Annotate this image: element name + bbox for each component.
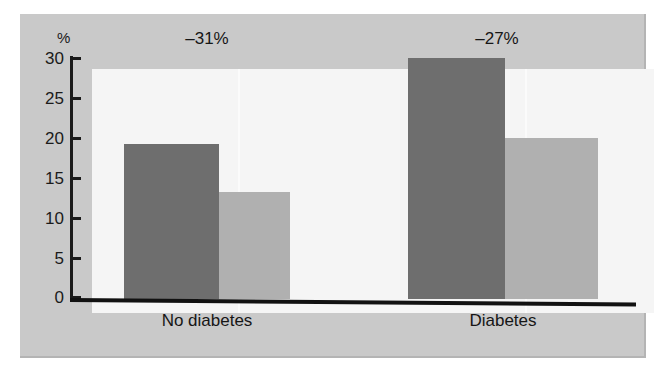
y-tick-label-20: 20 (30, 130, 64, 147)
y-tick-10 (70, 217, 81, 220)
y-tick-20 (70, 137, 81, 140)
y-tick-label-5: 5 (30, 250, 64, 267)
y-tick-label-25-wrap: 25 (20, 90, 64, 108)
y-tick-label-0-wrap: 0 (20, 289, 64, 307)
y-tick-label-10-wrap: 10 (20, 210, 64, 228)
bar-diabetes-treatment (505, 138, 598, 299)
bar-no-diabetes-control (124, 144, 219, 299)
y-tick-30 (70, 57, 81, 60)
y-tick-label-5-wrap: 5 (20, 250, 64, 268)
chart-figure: % 30 25 20 15 10 5 0 –31% –27% No diabet… (0, 0, 664, 371)
y-tick-label-20-wrap: 20 (20, 130, 64, 148)
y-tick-label-30-wrap: 30 (20, 50, 64, 68)
y-tick-label-10: 10 (30, 210, 64, 227)
category-label-no-diabetes: No diabetes (127, 312, 287, 329)
y-tick-label-15-wrap: 15 (20, 170, 64, 188)
bar-diabetes-control (408, 58, 505, 299)
y-tick-5 (70, 257, 81, 260)
y-tick-label-30: 30 (30, 50, 64, 67)
y-axis-unit-label: % (57, 30, 70, 45)
y-tick-label-15: 15 (30, 170, 64, 187)
y-tick-25 (70, 97, 81, 100)
annotation-diabetes: –27% (442, 30, 552, 47)
y-tick-label-25: 25 (30, 90, 64, 107)
y-tick-15 (70, 177, 81, 180)
annotation-no-diabetes: –31% (152, 30, 262, 47)
y-tick-label-0: 0 (30, 289, 64, 306)
bar-no-diabetes-treatment (219, 192, 290, 299)
category-label-diabetes: Diabetes (423, 312, 583, 329)
